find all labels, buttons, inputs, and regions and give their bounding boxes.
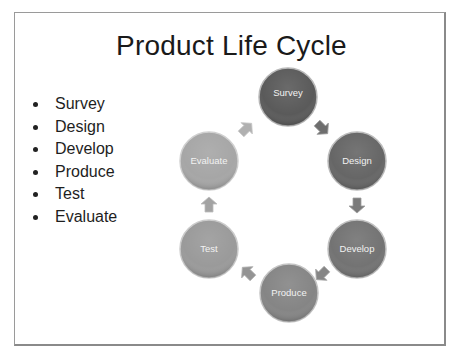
svg-text:Design: Design — [342, 155, 372, 166]
cycle-diagram: Survey Design Develop Produce Test Evalu… — [0, 0, 463, 354]
svg-text:Test: Test — [200, 243, 218, 254]
svg-text:Develop: Develop — [340, 243, 375, 254]
cycle-node-test: Test — [180, 220, 238, 278]
cycle-node-produce: Produce — [260, 264, 318, 322]
arrow-icon — [311, 117, 333, 139]
cycle-node-survey: Survey — [259, 68, 317, 126]
arrow-icon — [235, 118, 257, 140]
arrow-icon — [201, 197, 217, 212]
svg-text:Produce: Produce — [271, 287, 306, 298]
cycle-node-develop: Develop — [328, 220, 386, 278]
svg-text:Survey: Survey — [273, 87, 303, 98]
cycle-node-design: Design — [328, 132, 386, 190]
cycle-node-evaluate: Evaluate — [180, 132, 238, 190]
svg-text:Evaluate: Evaluate — [191, 155, 228, 166]
arrow-icon — [237, 262, 259, 284]
arrow-icon — [349, 198, 365, 213]
